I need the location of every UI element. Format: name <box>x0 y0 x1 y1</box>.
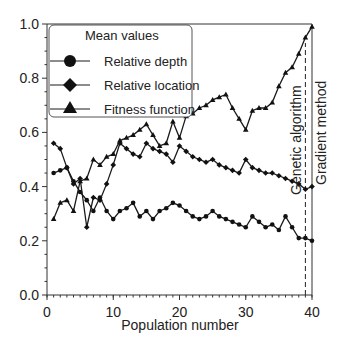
y-tick-label: 0.8 <box>20 70 40 86</box>
series-relative-depth <box>51 165 314 243</box>
y-tick-label: 0.0 <box>20 287 40 303</box>
annotation-gradient-method: Gradient method <box>313 81 329 185</box>
legend-label-location: Relative location <box>104 78 199 93</box>
legend-title: Mean values <box>85 28 159 43</box>
y-tick-label: 0.2 <box>20 233 40 249</box>
x-tick-label: 30 <box>238 304 254 320</box>
x-tick-label: 0 <box>43 304 51 320</box>
x-axis-label: Population number <box>121 317 239 333</box>
y-tick-label: 0.4 <box>20 179 40 195</box>
x-tick-label: 40 <box>304 304 320 320</box>
x-tick-label: 10 <box>105 304 121 320</box>
y-tick-label: 1.0 <box>20 16 40 32</box>
annotation-genetic-algorithm: Genetic algorithm <box>288 85 304 195</box>
series-relative-location <box>51 140 315 230</box>
legend-label-depth: Relative depth <box>104 54 187 69</box>
annotations: Genetic algorithm Gradient method <box>288 81 329 195</box>
circle-marker-icon <box>64 55 76 67</box>
line-chart: 0.00.20.40.60.81.0010203040 Genetic algo… <box>0 0 345 350</box>
y-tick-label: 0.6 <box>20 124 40 140</box>
legend: Mean values Relative depth Relative loca… <box>49 25 199 117</box>
legend-label-fitness: Fitness function <box>104 102 195 117</box>
